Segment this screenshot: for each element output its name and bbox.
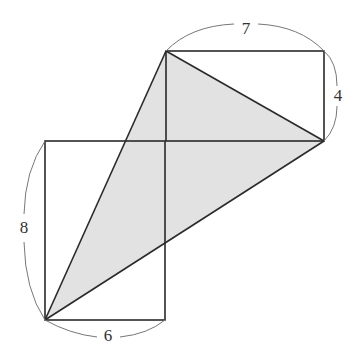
geometry-diagram: 7 4 8 6 [0,0,359,359]
shaded-triangle [45,51,324,320]
label-right-height: 4 [334,86,343,105]
label-top-width: 7 [242,19,251,38]
label-bottom-width: 6 [104,326,113,345]
label-left-height: 8 [20,218,29,237]
